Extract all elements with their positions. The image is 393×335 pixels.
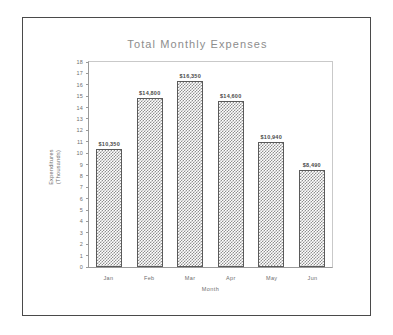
y-axis-tick-label: 1 bbox=[71, 253, 86, 259]
bar-value-label: $8,490 bbox=[303, 162, 321, 168]
y-axis-tick: 7 bbox=[71, 184, 89, 190]
y-axis-tick: 16 bbox=[71, 82, 89, 88]
y-axis-tick: 18 bbox=[71, 59, 89, 65]
y-axis-tick-label: 2 bbox=[71, 241, 86, 247]
y-axis-tick-label: 17 bbox=[71, 70, 86, 76]
bar[interactable]: $14,600 bbox=[218, 101, 244, 267]
y-axis-tick-label: 13 bbox=[71, 116, 86, 122]
bar[interactable]: $8,490 bbox=[299, 170, 325, 267]
y-axis-tick: 14 bbox=[71, 105, 89, 111]
y-axis-tick: 12 bbox=[71, 127, 89, 133]
y-axis-tick: 6 bbox=[71, 196, 89, 202]
y-axis-tick-label: 5 bbox=[71, 207, 86, 213]
bar-value-label: $10,350 bbox=[99, 141, 120, 147]
y-axis-tick: 0 bbox=[71, 264, 89, 270]
x-axis-tick-label: Feb bbox=[129, 270, 170, 286]
bar[interactable]: $16,350 bbox=[177, 81, 203, 267]
y-axis-title-line-2: (Thousands) bbox=[55, 149, 62, 185]
bar[interactable]: $10,350 bbox=[96, 149, 122, 267]
y-axis-tick-label: 18 bbox=[71, 59, 86, 65]
x-axis-tick-labels: JanFebMarAprMayJun bbox=[88, 270, 333, 286]
y-axis-tick: 9 bbox=[71, 162, 89, 168]
bar-slot: $16,350 bbox=[170, 62, 211, 267]
y-axis-tick-label: 0 bbox=[71, 264, 86, 270]
bar-slot: $10,350 bbox=[89, 62, 130, 267]
bar[interactable]: $14,800 bbox=[137, 98, 163, 267]
y-axis-tick-label: 9 bbox=[71, 162, 86, 168]
y-axis-tick-label: 8 bbox=[71, 173, 86, 179]
y-axis-tick: 3 bbox=[71, 230, 89, 236]
bar-value-label: $14,800 bbox=[139, 90, 160, 96]
x-axis-tick-label: Apr bbox=[210, 270, 251, 286]
y-axis-tick: 5 bbox=[71, 207, 89, 213]
y-axis-tick-label: 10 bbox=[71, 150, 86, 156]
bar-value-label: $14,600 bbox=[220, 93, 241, 99]
x-axis-tick-label: May bbox=[251, 270, 292, 286]
y-axis-tick-label: 6 bbox=[71, 196, 86, 202]
bar-slot: $10,940 bbox=[251, 62, 292, 267]
y-axis-tick: 11 bbox=[71, 139, 89, 145]
y-axis-tick: 17 bbox=[71, 70, 89, 76]
y-axis-tick-label: 4 bbox=[71, 218, 86, 224]
bar-value-label: $10,940 bbox=[261, 134, 282, 140]
y-axis-tick-label: 16 bbox=[71, 82, 86, 88]
bars-layer: $10,350$14,800$16,350$14,600$10,940$8,49… bbox=[89, 62, 332, 267]
chart-frame: Total Monthly Expenses Expenditures (Tho… bbox=[22, 17, 371, 316]
y-axis-tick: 10 bbox=[71, 150, 89, 156]
y-axis-tick-label: 11 bbox=[71, 139, 86, 145]
plot-area: 1817161514131211109876543210 $10,350$14,… bbox=[88, 61, 333, 268]
y-axis-tick: 15 bbox=[71, 93, 89, 99]
y-axis-tick: 8 bbox=[71, 173, 89, 179]
y-axis-tick: 13 bbox=[71, 116, 89, 122]
y-axis-title-line-1: Expenditures bbox=[48, 149, 55, 185]
x-axis-tick-label: Mar bbox=[170, 270, 211, 286]
chart-title: Total Monthly Expenses bbox=[23, 38, 372, 50]
bar-slot: $8,490 bbox=[292, 62, 333, 267]
bar-value-label: $16,350 bbox=[180, 73, 201, 79]
y-axis-tick-label: 7 bbox=[71, 184, 86, 190]
y-axis-tick-label: 3 bbox=[71, 230, 86, 236]
bar-slot: $14,600 bbox=[211, 62, 252, 267]
y-axis-tick: 4 bbox=[71, 218, 89, 224]
x-axis-tick-label: Jun bbox=[292, 270, 333, 286]
x-axis-title: Month bbox=[88, 286, 333, 292]
bar[interactable]: $10,940 bbox=[258, 142, 284, 267]
y-axis-tick: 2 bbox=[71, 241, 89, 247]
y-axis-title: Expenditures (Thousands) bbox=[48, 149, 62, 185]
x-axis-tick-label: Jan bbox=[88, 270, 129, 286]
y-axis-tick-label: 14 bbox=[71, 105, 86, 111]
y-axis-tick-label: 15 bbox=[71, 93, 86, 99]
y-axis-tick-label: 12 bbox=[71, 127, 86, 133]
y-axis-tick: 1 bbox=[71, 253, 89, 259]
bar-slot: $14,800 bbox=[130, 62, 171, 267]
